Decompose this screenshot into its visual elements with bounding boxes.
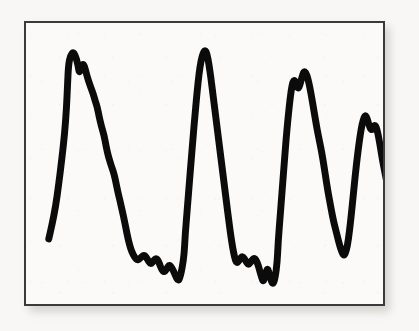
figure-root [0, 0, 419, 331]
plot-frame [24, 21, 385, 306]
waveform-plot [26, 23, 383, 304]
waveform-trace [49, 51, 383, 284]
